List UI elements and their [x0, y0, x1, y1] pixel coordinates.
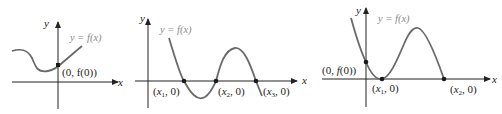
function-label: y = f(x) — [377, 13, 410, 25]
function-label: y = f(x) — [159, 24, 192, 36]
y-intercept-label: (0, f(0)) — [62, 66, 97, 79]
root-point-x2 — [214, 79, 219, 84]
root-label-x3: (x3, 0) — [263, 85, 290, 99]
root-point-x3 — [254, 79, 259, 84]
y-intercept-point — [364, 60, 369, 65]
graph-1: x y y = f(x) (0, f(0)) — [12, 17, 123, 109]
x-axis-label: x — [491, 73, 497, 85]
root-point-x2 — [442, 77, 447, 82]
graph-3: x y y = f(x) (0, f(0)) (x1, 0) (x2, 0) — [322, 4, 497, 107]
graph-2: x y y = f(x) (x1, 0) (x2, 0) (x3, 0) — [135, 12, 307, 108]
y-axis-label: y — [43, 17, 49, 29]
y-axis-label: y — [139, 12, 145, 24]
root-label-x1: (x1, 0) — [153, 85, 180, 99]
root-point-x1 — [380, 77, 385, 82]
x-axis-label: x — [301, 74, 307, 86]
y-axis-label: y — [355, 4, 361, 16]
y-intercept-label: (0, f(0)) — [322, 64, 357, 77]
root-label-x1: (x1, 0) — [372, 82, 399, 96]
function-curve — [351, 18, 444, 79]
root-point-x1 — [182, 79, 187, 84]
function-label: y = f(x) — [69, 32, 102, 44]
root-label-x2: (x2, 0) — [218, 85, 245, 99]
function-graphs-figure: x y y = f(x) (0, f(0)) x y y = f(x) (x1,… — [0, 0, 502, 114]
y-intercept-point — [56, 63, 60, 67]
root-label-x2: (x2, 0) — [450, 83, 477, 97]
x-axis-label: x — [117, 76, 123, 88]
function-curve — [169, 38, 262, 98]
